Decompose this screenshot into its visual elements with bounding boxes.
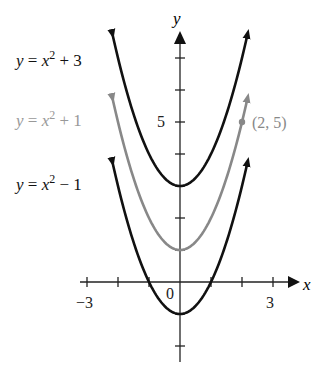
tick-label-3: 3: [266, 294, 274, 311]
x-axis: [80, 276, 300, 288]
y-axis-label: y: [171, 9, 181, 28]
x-axis-label: x: [302, 275, 311, 294]
x-axis-arrow-icon: [288, 276, 300, 288]
tick-label-5: 5: [157, 113, 165, 130]
point-label: (2, 5): [252, 114, 287, 132]
label-curve-mid: y = x2 + 1: [14, 108, 82, 130]
origin-label: 0: [166, 285, 174, 302]
label-curve-bot: y = x2 − 1: [14, 172, 82, 194]
y-axis-arrow-icon: [174, 31, 186, 44]
tick-label-neg3: −3: [76, 294, 93, 311]
label-curve-top: y = x2 + 3: [14, 48, 82, 70]
parabola-graph: x y −3 3 5 0 (2, 5) y = x2 + 3 y = x2 + …: [0, 0, 322, 370]
point-2-5: [239, 119, 245, 125]
